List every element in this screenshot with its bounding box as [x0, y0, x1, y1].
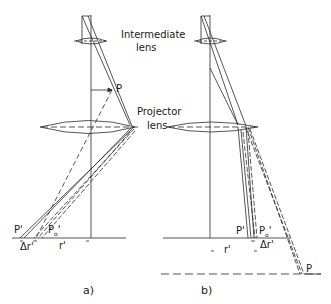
point-p0-prime-label-b: Po' [259, 226, 271, 238]
point-p-prime-label-b: P' [236, 226, 245, 236]
r-prime-label-a: r' [59, 241, 66, 251]
intermediate-lens-label: Intermediate [121, 30, 186, 40]
point-p-prime-label-a: P' [14, 225, 23, 235]
diagram-canvas [0, 0, 331, 304]
delta-r-label-b: Δr' [260, 240, 274, 250]
r-prime-label-b: r' [224, 245, 231, 255]
point-p-label-a: P [116, 84, 122, 94]
caption-b: b) [201, 285, 212, 296]
projector-lens-label-line2: lens [147, 121, 167, 131]
point-p0-prime-label-a: Po' [48, 225, 60, 237]
point-p-label-b: P [306, 264, 312, 274]
panel-a [12, 15, 138, 241]
projector-lens-label: Projector [137, 107, 181, 117]
intermediate-lens-label-line2: lens [136, 43, 156, 53]
delta-r-label-a: Δr' [20, 242, 34, 252]
caption-a: a) [83, 285, 94, 296]
